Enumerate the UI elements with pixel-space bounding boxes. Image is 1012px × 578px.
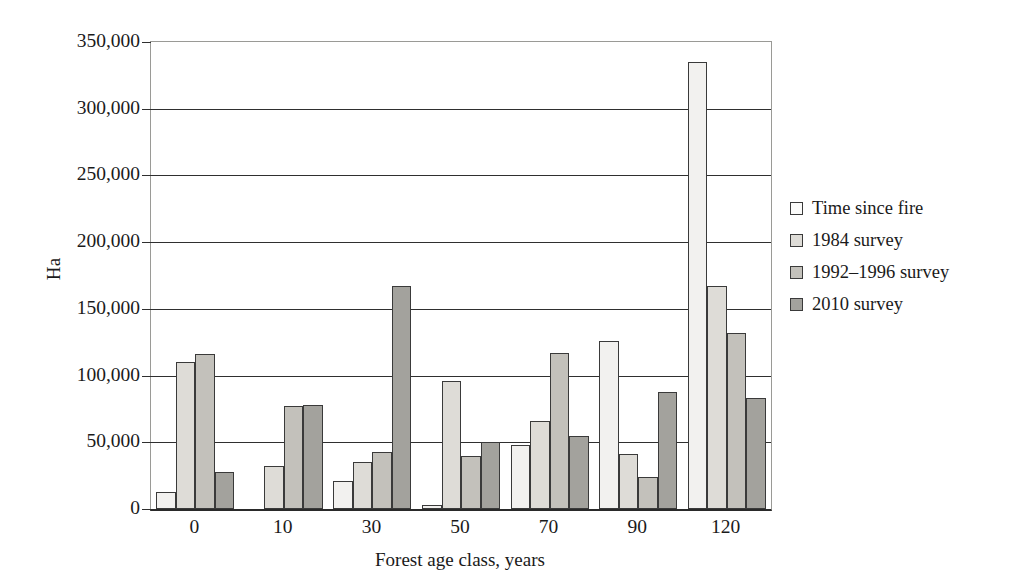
bar-chart: Ha 050,000100,000150,000200,000250,00030… — [0, 0, 1012, 578]
bar — [569, 436, 589, 509]
legend-swatch-icon — [790, 266, 803, 279]
legend-swatch-icon — [790, 234, 803, 247]
y-tick-mark — [142, 109, 151, 110]
bar — [511, 445, 531, 509]
bar — [442, 381, 462, 509]
bar — [688, 62, 708, 509]
bar-group — [422, 42, 500, 509]
bar — [156, 492, 176, 509]
y-tick-label: 350,000 — [55, 31, 150, 51]
y-tick-label: 0 — [55, 498, 150, 518]
y-tick-mark — [142, 509, 151, 510]
bar — [746, 398, 766, 509]
y-tick-label: 300,000 — [55, 98, 150, 118]
y-tick-label: 150,000 — [55, 298, 150, 318]
y-tick-label: 50,000 — [55, 432, 150, 452]
x-tick-label: 10 — [273, 516, 293, 538]
bar — [176, 362, 196, 509]
bar-group — [511, 42, 589, 509]
x-axis-title: Forest age class, years — [150, 549, 770, 571]
x-tick-label: 30 — [362, 516, 382, 538]
bar — [550, 353, 570, 509]
bar-group — [333, 42, 411, 509]
bar — [481, 442, 501, 509]
y-axis-tick-labels: 050,000100,000150,000200,000250,000300,0… — [55, 0, 150, 578]
bar — [422, 505, 442, 509]
bar — [707, 286, 727, 509]
bar-group — [245, 42, 323, 509]
bar — [195, 354, 215, 509]
legend-item[interactable]: Time since fire — [790, 192, 1005, 224]
legend-item[interactable]: 2010 survey — [790, 288, 1005, 320]
legend-swatch-icon — [790, 298, 803, 311]
x-tick-label: 90 — [627, 516, 647, 538]
bar — [461, 456, 481, 509]
y-tick-mark — [142, 242, 151, 243]
bar — [264, 466, 284, 509]
plot-area — [150, 41, 772, 511]
y-tick-mark — [142, 309, 151, 310]
bar — [333, 481, 353, 509]
bar — [530, 421, 550, 509]
bar — [727, 333, 747, 509]
bar — [353, 462, 373, 509]
legend-label: 1984 survey — [812, 231, 903, 250]
legend-label: 1992–1996 survey — [812, 263, 949, 282]
legend-label: 2010 survey — [812, 295, 903, 314]
y-tick-mark — [142, 376, 151, 377]
bar-group — [688, 42, 766, 509]
x-tick-label: 0 — [189, 516, 199, 538]
y-tick-mark — [142, 175, 151, 176]
bar — [303, 405, 323, 509]
y-tick-mark — [142, 442, 151, 443]
bar — [619, 454, 639, 509]
y-tick-label: 200,000 — [55, 231, 150, 251]
bar-group — [599, 42, 677, 509]
x-tick-label: 50 — [450, 516, 470, 538]
y-tick-mark — [142, 42, 151, 43]
bar — [599, 341, 619, 509]
chart-legend: Time since fire1984 survey1992–1996 surv… — [790, 192, 1005, 320]
y-tick-label: 250,000 — [55, 165, 150, 185]
x-tick-label: 70 — [539, 516, 559, 538]
bar — [284, 406, 304, 509]
bars-layer — [151, 42, 771, 509]
bar — [392, 286, 412, 509]
bar — [372, 452, 392, 509]
bar — [638, 477, 658, 509]
bar — [215, 472, 235, 509]
bar — [658, 392, 678, 509]
y-tick-label: 100,000 — [55, 365, 150, 385]
legend-swatch-icon — [790, 202, 803, 215]
legend-label: Time since fire — [812, 199, 923, 218]
x-tick-label: 120 — [711, 516, 740, 538]
legend-item[interactable]: 1984 survey — [790, 224, 1005, 256]
bar-group — [156, 42, 234, 509]
legend-item[interactable]: 1992–1996 survey — [790, 256, 1005, 288]
